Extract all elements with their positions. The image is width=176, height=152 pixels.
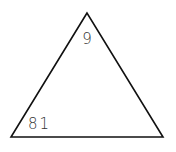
triangle-diagram: 9 81 bbox=[0, 0, 176, 152]
bottom-left-angle-label: 81 bbox=[28, 115, 51, 133]
top-angle-label: 9 bbox=[82, 30, 92, 48]
